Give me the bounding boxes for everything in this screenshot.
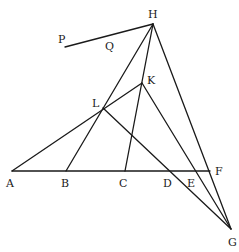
point-label-e: E — [187, 177, 195, 190]
point-label-k: K — [147, 74, 156, 87]
point-labels: ABCDEFGHKLPQ — [5, 8, 237, 249]
point-label-g: G — [228, 236, 237, 249]
point-label-p: P — [58, 33, 66, 46]
point-label-b: B — [61, 177, 69, 190]
point-label-a: A — [5, 177, 15, 190]
segment-hc — [125, 24, 153, 171]
line-segments — [12, 24, 231, 229]
segment-lg — [103, 108, 231, 229]
point-label-c: C — [119, 177, 127, 190]
segment-kg — [142, 83, 231, 229]
point-label-q: Q — [105, 40, 114, 53]
segment-hg — [153, 24, 231, 229]
point-label-h: H — [148, 8, 158, 21]
point-label-f: F — [215, 165, 223, 178]
point-label-d: D — [163, 177, 172, 190]
geometry-diagram: ABCDEFGHKLPQ — [0, 0, 239, 252]
point-label-l: L — [92, 97, 100, 110]
